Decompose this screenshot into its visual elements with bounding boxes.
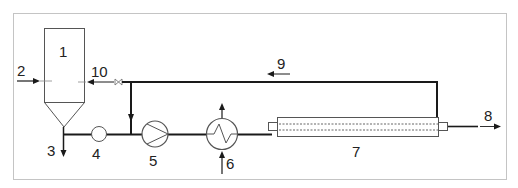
label-8: 8	[484, 108, 492, 123]
label-4: 4	[92, 146, 100, 161]
pump-icon	[142, 121, 168, 147]
membrane-module-icon	[269, 118, 448, 137]
label-1: 1	[59, 44, 67, 59]
label-10: 10	[91, 64, 108, 79]
frame	[14, 14, 507, 180]
outlet-arrow-icon	[61, 127, 67, 157]
label-7: 7	[352, 144, 360, 159]
label-9: 9	[277, 56, 285, 71]
flow-meter-icon	[92, 127, 107, 142]
valve-icon	[115, 79, 122, 85]
label-5: 5	[149, 153, 157, 168]
label-3: 3	[47, 143, 55, 158]
label-6: 6	[226, 156, 234, 171]
recycle-down-arrow-icon	[128, 114, 134, 122]
permeate-arrow-icon	[448, 124, 501, 130]
process-flow-diagram	[0, 0, 518, 188]
label-2: 2	[17, 63, 25, 78]
